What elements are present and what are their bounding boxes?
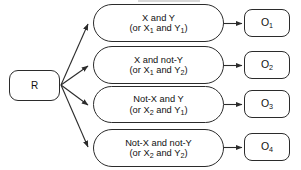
condition-4-line-1: Not-X and not-Y (125, 138, 192, 148)
condition-1-line-1: X and Y (142, 13, 175, 23)
outcome-4-label: O4 (261, 141, 273, 153)
node-root-label: R (31, 80, 38, 91)
outcome-2-label: O2 (261, 59, 273, 71)
node-root-r[interactable]: R (9, 70, 60, 101)
node-condition-2[interactable]: X and not-Y (or X1 and Y2) (93, 46, 224, 84)
condition-3-line-1: Not-X and Y (133, 94, 183, 104)
node-outcome-1[interactable]: O1 (244, 9, 290, 37)
diagram-canvas: R X and Y (or X1 and Y1) X and not-Y (or… (0, 0, 301, 170)
node-outcome-3[interactable]: O3 (244, 90, 290, 118)
outcome-1-label: O1 (261, 17, 273, 29)
edge-root-to-cond-4 (61, 85, 88, 147)
condition-3-line-2: (or X2 and Y1) (130, 105, 188, 115)
top-crop-artifact (138, 0, 200, 2)
node-outcome-4[interactable]: O4 (244, 133, 290, 161)
node-condition-4[interactable]: Not-X and not-Y (or X2 and Y2) (93, 129, 224, 167)
condition-4-line-2: (or X2 and Y2) (130, 148, 188, 158)
condition-2-line-2: (or X1 and Y2) (130, 65, 188, 75)
condition-1-line-2: (or X1 and Y1) (130, 23, 188, 33)
node-condition-3[interactable]: Not-X and Y (or X2 and Y1) (93, 86, 224, 123)
condition-2-line-1: X and not-Y (134, 55, 183, 65)
node-condition-1[interactable]: X and Y (or X1 and Y1) (93, 4, 224, 42)
outcome-3-label: O3 (261, 98, 273, 110)
node-outcome-2[interactable]: O2 (244, 51, 290, 79)
